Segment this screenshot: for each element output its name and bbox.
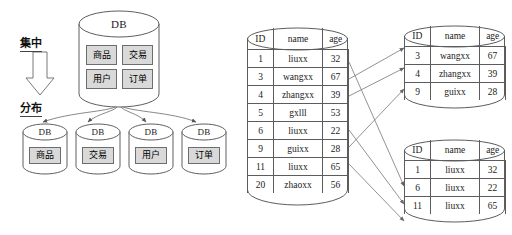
table-row: 20 zhaoxx 56 <box>248 176 349 194</box>
module-chip-order-shard: 订单 <box>188 147 220 164</box>
cell-age: 65 <box>480 197 506 215</box>
table-row: 9 guixx 28 <box>405 83 506 101</box>
module-chip-transaction: 交易 <box>122 45 153 65</box>
column-header-id: ID <box>248 28 274 50</box>
table-header-row: ID name age <box>248 28 349 50</box>
down-arrow-icon <box>26 52 54 95</box>
cell-age: 67 <box>480 47 506 65</box>
cell-age: 28 <box>323 140 349 158</box>
cell-name: zhaoxx <box>274 176 323 194</box>
caption-distributed: 分布 <box>20 99 42 117</box>
source-table-cylinder: ID name age 1 liuxx 32 3 wangxx 67 4 <box>247 28 348 208</box>
distributed-db-label: DB <box>22 127 68 137</box>
caption-centralized: 集中 <box>20 34 42 52</box>
cell-age: 39 <box>480 65 506 83</box>
shard-table-1: ID name age 3 wangxx 67 4 zhangxx 39 9 <box>404 26 506 100</box>
column-header-id: ID <box>405 140 431 161</box>
table-row: 5 gxlll 53 <box>248 104 349 122</box>
cell-age: 53 <box>323 104 349 122</box>
table-row: 4 zhangxx 39 <box>248 86 349 104</box>
cell-id: 11 <box>405 197 431 215</box>
column-header-name: name <box>431 26 480 47</box>
module-chip-user-shard: 用户 <box>135 147 167 164</box>
cell-id: 5 <box>248 104 274 122</box>
cell-name: zhangxx <box>274 86 323 104</box>
central-database-label: DB <box>78 18 160 30</box>
shard-table-2: ID name age 1 liuxx 32 6 liuxx 22 11 <box>404 140 506 214</box>
cell-id: 6 <box>248 122 274 140</box>
cell-name: liuxx <box>431 179 480 197</box>
cell-name: liuxx <box>274 122 323 140</box>
cell-name: liuxx <box>431 197 480 215</box>
distributed-database-user: DB 用户 <box>128 123 174 175</box>
column-header-age: age <box>323 28 349 50</box>
cell-id: 1 <box>248 50 274 68</box>
cell-age: 56 <box>323 176 349 194</box>
cell-age: 22 <box>323 122 349 140</box>
cell-age: 32 <box>323 50 349 68</box>
module-chip-transaction-shard: 交易 <box>82 147 114 164</box>
cell-id: 3 <box>405 47 431 65</box>
cell-age: 65 <box>323 158 349 176</box>
distributed-database-order: DB 订单 <box>181 123 227 175</box>
column-header-id: ID <box>405 26 431 47</box>
cell-age: 28 <box>480 83 506 101</box>
table-row: 4 zhangxx 39 <box>405 65 506 83</box>
cell-id: 6 <box>405 179 431 197</box>
cell-name: wangxx <box>431 47 480 65</box>
cell-age: 32 <box>480 161 506 179</box>
table-row: 6 liuxx 22 <box>405 179 506 197</box>
table-row: 1 liuxx 32 <box>405 161 506 179</box>
cell-name: guixx <box>431 83 480 101</box>
column-header-age: age <box>480 140 506 161</box>
distributed-db-label: DB <box>75 127 121 137</box>
cell-name: liuxx <box>274 158 323 176</box>
cell-name: liuxx <box>274 50 323 68</box>
database-sharding-diagram: 集中 分布 DB 商品 交易 用户 订单 DB 商品 DB 交易 <box>0 0 512 235</box>
column-header-name: name <box>431 140 480 161</box>
module-chip-goods: 商品 <box>86 45 117 65</box>
cell-age: 22 <box>480 179 506 197</box>
module-chip-user: 用户 <box>86 69 117 89</box>
cell-age: 67 <box>323 68 349 86</box>
table-row: 11 liuxx 65 <box>405 197 506 215</box>
table-row: 3 wangxx 67 <box>248 68 349 86</box>
cell-id: 3 <box>248 68 274 86</box>
cell-name: gxlll <box>274 104 323 122</box>
cell-id: 9 <box>405 83 431 101</box>
cell-id: 4 <box>405 65 431 83</box>
table-header-row: ID name age <box>405 140 506 161</box>
cell-id: 1 <box>405 161 431 179</box>
shard-table-1-cylinder: ID name age 3 wangxx 67 4 zhangxx 39 9 <box>404 26 505 112</box>
table-header-row: ID name age <box>405 26 506 47</box>
table-row: 6 liuxx 22 <box>248 122 349 140</box>
module-chip-order: 订单 <box>122 69 153 89</box>
shard-mapping-arrows <box>349 48 404 221</box>
source-table: ID name age 1 liuxx 32 3 wangxx 67 4 <box>247 28 349 193</box>
column-header-name: name <box>274 28 323 50</box>
cell-id: 4 <box>248 86 274 104</box>
cell-name: liuxx <box>431 161 480 179</box>
cell-name: zhangxx <box>431 65 480 83</box>
cell-id: 9 <box>248 140 274 158</box>
distributed-database-goods: DB 商品 <box>22 123 68 175</box>
distributed-database-transaction: DB 交易 <box>75 123 121 175</box>
table-row: 9 guixx 28 <box>248 140 349 158</box>
cell-name: wangxx <box>274 68 323 86</box>
cell-id: 20 <box>248 176 274 194</box>
central-database-cylinder: DB 商品 交易 用户 订单 <box>78 10 160 108</box>
cell-name: guixx <box>274 140 323 158</box>
cell-age: 39 <box>323 86 349 104</box>
module-chip-goods-shard: 商品 <box>29 147 61 164</box>
table-row: 1 liuxx 32 <box>248 50 349 68</box>
table-row: 11 liuxx 65 <box>248 158 349 176</box>
shard-table-2-cylinder: ID name age 1 liuxx 32 6 liuxx 22 11 <box>404 140 505 226</box>
cell-id: 11 <box>248 158 274 176</box>
table-row: 3 wangxx 67 <box>405 47 506 65</box>
column-header-age: age <box>480 26 506 47</box>
distributed-db-label: DB <box>128 127 174 137</box>
distributed-db-label: DB <box>181 127 227 137</box>
